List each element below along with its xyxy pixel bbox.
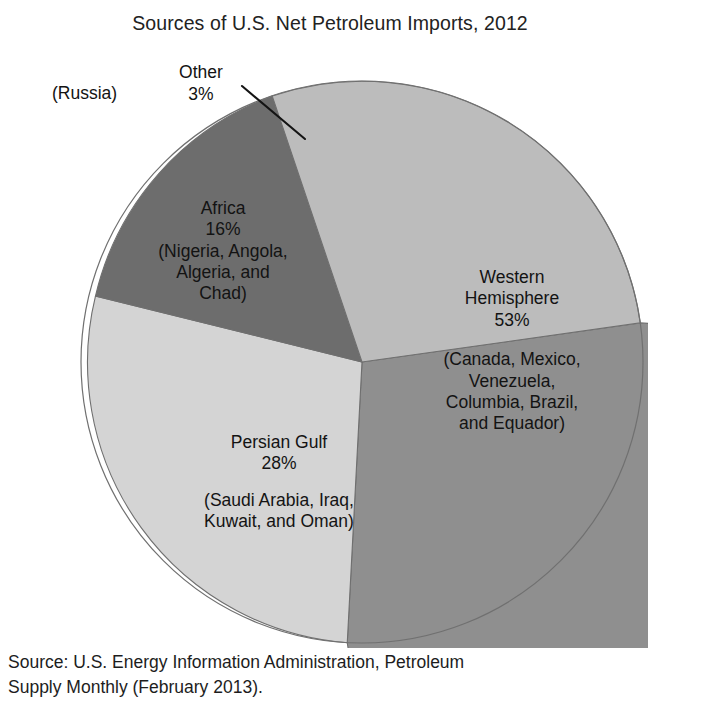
slice-label-other-name: Other (149, 62, 253, 84)
source-note-line2: Supply Monthly (February 2013). (8, 675, 638, 700)
pie-slice-western-hemisphere[interactable] (347, 323, 648, 648)
pie-chart (76, 76, 648, 648)
pie-svg (76, 76, 648, 648)
slice-label-other-percent: 3% (149, 84, 253, 106)
slice-label-other-members: (Russia) (52, 83, 117, 104)
leader-line-other (240, 84, 350, 150)
edge-credit: Source: U.S. Energy Information Administ… (691, 708, 703, 714)
chart-title: Sources of U.S. Net Petroleum Imports, 2… (0, 12, 660, 35)
slice-label-other: Other 3% (149, 62, 253, 105)
source-note: Source: U.S. Energy Information Administ… (8, 650, 638, 700)
pie-chart-figure: Sources of U.S. Net Petroleum Imports, 2… (0, 0, 705, 714)
source-note-line1: Source: U.S. Energy Information Administ… (8, 650, 638, 675)
